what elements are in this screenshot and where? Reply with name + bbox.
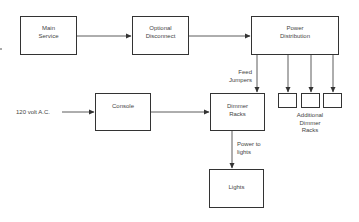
node-additional-rack-2 <box>301 93 320 108</box>
label-feed-jumpers: Feed Jumpers <box>224 69 252 84</box>
node-label: Dimmer Racks <box>211 94 264 118</box>
label-power-to-lights: Power to lights <box>237 141 261 156</box>
node-lights: Lights <box>209 169 264 208</box>
node-label: Main Service <box>21 17 76 40</box>
label-additional-dimmer-racks: Additional Dimmer Racks <box>290 112 330 135</box>
node-main-service: Main Service <box>20 16 77 55</box>
node-label: Console <box>96 94 150 110</box>
node-additional-rack-1 <box>278 93 297 108</box>
node-optional-disconnect: Optional Disconnect <box>132 16 189 55</box>
node-dimmer-racks: Dimmer Racks <box>210 93 265 131</box>
node-label: Power Distribution <box>252 17 338 40</box>
node-label: Optional Disconnect <box>133 17 188 40</box>
node-power-distribution: Power Distribution <box>251 16 339 55</box>
node-console: Console <box>95 93 151 131</box>
label-120v-input: 120 volt A.C. <box>16 109 50 117</box>
node-additional-rack-3 <box>323 93 342 108</box>
node-label: Lights <box>210 170 263 191</box>
